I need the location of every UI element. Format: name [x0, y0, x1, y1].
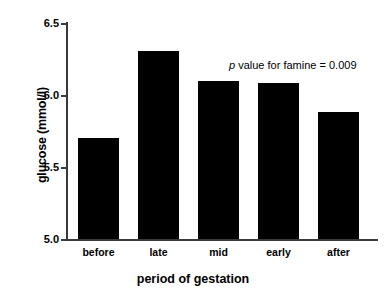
x-axis-line — [66, 239, 378, 241]
y-tick-mark — [61, 23, 66, 25]
y-axis-line — [66, 22, 68, 239]
x-tick-label-mid: mid — [188, 246, 249, 258]
y-axis-title: glucose (mmol/l) — [35, 35, 49, 235]
y-tick-mark — [61, 95, 66, 97]
x-tick-label-before: before — [68, 246, 129, 258]
p-value-annotation: p value for famine = 0.009 — [229, 59, 357, 71]
x-tick-label-early: early — [248, 246, 309, 258]
bar-mid — [198, 81, 239, 239]
y-tick-mark — [61, 239, 66, 241]
x-tick-label-late: late — [128, 246, 189, 258]
x-axis-title: period of gestation — [0, 272, 386, 286]
p-value-text: value for famine = 0.009 — [235, 59, 356, 71]
y-tick-label: 6.0 — [44, 89, 59, 101]
y-tick-label: 5.0 — [44, 233, 59, 245]
x-tick-label-after: after — [308, 246, 369, 258]
y-tick-label: 6.5 — [44, 17, 59, 29]
y-tick-label: 5.5 — [44, 161, 59, 173]
bar-after — [318, 112, 359, 239]
bar-before — [78, 138, 119, 239]
plot-area: 6.5 6.0 5.5 5.0 before late mid early af… — [66, 22, 378, 239]
bar-chart-figure: glucose (mmol/l) 6.5 6.0 5.5 5.0 before … — [0, 0, 386, 299]
bar-late — [138, 51, 179, 239]
bar-early — [258, 83, 299, 239]
y-tick-mark — [61, 167, 66, 169]
